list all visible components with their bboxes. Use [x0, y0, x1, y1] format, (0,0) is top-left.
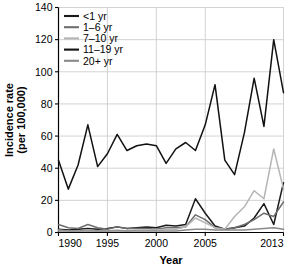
- data-series-lines: [59, 40, 284, 231]
- y-tick-label: 20: [41, 194, 53, 206]
- x-tick-label: 2005: [194, 237, 218, 249]
- y-tick-label: 100: [35, 66, 53, 78]
- legend-label: 7–10 yr: [83, 32, 119, 44]
- incidence-rate-line-chart: 020406080100120140 19901995200020052013 …: [0, 0, 287, 273]
- x-axis-ticks: 19901995200020052013: [59, 233, 284, 250]
- series-line: [59, 149, 284, 231]
- x-tick-label: 2013: [260, 237, 284, 249]
- legend-label: 11–19 yr: [83, 43, 124, 55]
- y-tick-label: 140: [35, 1, 53, 13]
- y-tick-label: 40: [41, 162, 53, 174]
- y-tick-label: 0: [47, 226, 53, 238]
- series-line: [59, 183, 284, 230]
- chart-canvas: 020406080100120140 19901995200020052013 …: [0, 0, 287, 273]
- y-tick-label: 60: [41, 130, 53, 142]
- legend-label: 1–6 yr: [83, 21, 113, 33]
- y-axis-title: (per 100,000): [15, 86, 27, 154]
- legend-label: 20+ yr: [83, 55, 113, 67]
- y-axis-ticks: 020406080100120140: [35, 1, 59, 238]
- y-axis-title: Incidence rate: [3, 83, 15, 157]
- x-tick-label: 1995: [96, 237, 120, 249]
- chart-legend: <1 yr1–6 yr7–10 yr11–19 yr20+ yr: [64, 10, 124, 67]
- legend-label: <1 yr: [83, 10, 107, 22]
- y-tick-label: 120: [35, 33, 53, 45]
- x-tick-label: 2000: [145, 237, 169, 249]
- y-tick-label: 80: [41, 98, 53, 110]
- x-axis-title: Year: [159, 254, 183, 266]
- x-tick-label: 1990: [59, 237, 83, 249]
